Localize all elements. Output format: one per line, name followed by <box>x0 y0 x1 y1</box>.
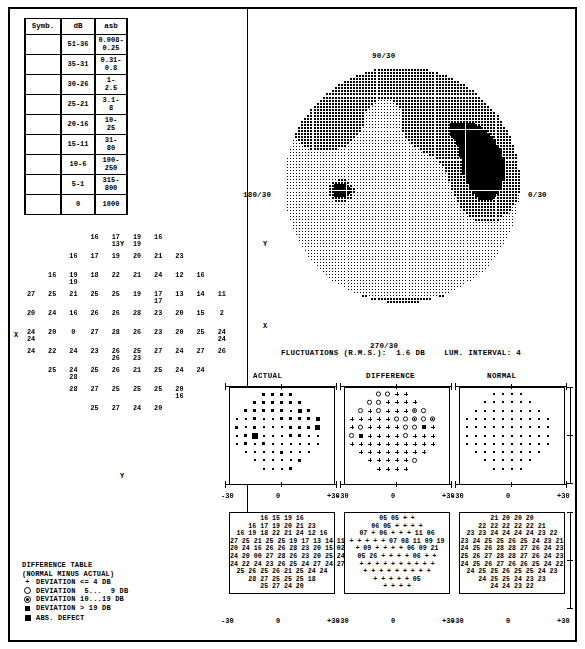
field-value: 27 <box>151 348 165 355</box>
field-value: 23 <box>172 253 186 260</box>
table-row: 10-6100-250 <box>25 155 127 175</box>
field-value: 24 <box>130 405 144 412</box>
panel-axis-tick-center <box>281 482 282 487</box>
field-value: 19 <box>109 253 123 260</box>
symbol-density-swatch <box>25 95 61 115</box>
field-value: 28 <box>109 329 123 336</box>
panel-axis-tick-center <box>511 384 512 389</box>
gray-label-90: 90/30 <box>372 52 396 60</box>
panel-y-axis-tick <box>567 608 573 609</box>
legend-entry: ABS. DEFECT <box>22 614 128 623</box>
panel-x-axis-label: -30 <box>451 492 464 500</box>
field-value: 23 <box>88 348 102 355</box>
field-value: 22 <box>109 272 123 279</box>
symbol-db-range: 10-6 <box>61 155 95 175</box>
numeric-table-row: 06 05 + + + + <box>345 523 449 531</box>
field-value: 27 <box>109 405 123 412</box>
numeric-table-row: 25 26 25 26 21 25 24 24 <box>230 568 334 576</box>
symbol-asb-range: 0.008-0.25 <box>95 35 127 55</box>
symbol-asb-range: 100-250 <box>95 155 127 175</box>
field-value: 23 <box>151 310 165 317</box>
field-value: 27 <box>88 329 102 336</box>
gray-label-180: 180/30 <box>243 191 271 199</box>
symbol-asb-range: 1-2.5 <box>95 75 127 95</box>
field-value: 25 <box>88 291 102 298</box>
field-value: 0 <box>66 329 80 336</box>
legend-symbol-circle-icon <box>22 587 33 596</box>
field-value: 26 <box>88 310 102 317</box>
numeric-table-normal: 21 20 20 2022 22 22 22 22 2123 23 24 24 … <box>459 512 565 594</box>
legend-text: DEVIATION 10...19 DB <box>36 595 124 603</box>
panel-x-axis-label: 0 <box>276 492 280 500</box>
field-value: 25 <box>151 367 165 374</box>
field-value: 20 <box>172 310 186 317</box>
numeric-table-row: 25 27 24 20 <box>230 583 334 591</box>
panel-x-axis-label: 0 <box>391 617 395 625</box>
frame-border-top <box>8 7 577 9</box>
panel-header-actual: ACTUAL <box>253 372 282 380</box>
field-value: 24 <box>151 272 165 279</box>
table-row: 35-310.31-0.8 <box>25 55 127 75</box>
numeric-table-actual: 16 15 19 1616 17 19 20 21 2316 19 18 22 … <box>229 512 335 594</box>
gray-axis-x-marker: X <box>263 322 267 330</box>
field-value: 25 <box>194 329 208 336</box>
numeric-table-row: 05 26 + + + + 06 + + <box>345 553 449 561</box>
field-value: 27 <box>88 386 102 393</box>
panel-x-axis-label: -30 <box>221 617 234 625</box>
panel-x-axis-label: 0 <box>506 492 510 500</box>
field-value: 27 <box>24 291 38 298</box>
panel-header-difference: DIFFERENCE <box>366 372 415 380</box>
numeric-table-row: + + + + + 07 08 11 09 19 <box>345 538 449 546</box>
field-value: 23 <box>151 329 165 336</box>
symbol-density-swatch <box>25 195 61 215</box>
legend-text: DEVIATION 5... 9 DB <box>36 587 128 595</box>
column-header-asb: asb <box>95 19 127 35</box>
legend-entry: DEVIATION 10...19 DB <box>22 595 128 604</box>
field-value: 14 <box>194 291 208 298</box>
numfield-axis-y-marker-bottom: Y <box>120 472 124 480</box>
field-value: 25 <box>130 386 144 393</box>
field-value: 20 <box>172 329 186 336</box>
numeric-table-row: 25 26 27 28 28 27 26 24 23 <box>460 553 564 561</box>
field-value: 25 <box>109 291 123 298</box>
panel-y-axis-tick <box>567 560 573 561</box>
panel-y-axis-tick <box>567 483 573 484</box>
field-value: 16 <box>88 234 102 241</box>
panel-axis-tick <box>225 481 226 488</box>
column-header-db: dB <box>61 19 95 35</box>
field-value: 25 <box>151 386 165 393</box>
legend-entry: +DEVIATION <= 4 DB <box>22 578 128 587</box>
symbol-density-swatch <box>25 135 61 155</box>
field-value: 24 <box>172 367 186 374</box>
field-value: 21 <box>130 367 144 374</box>
field-value: 15 <box>194 310 208 317</box>
field-value: 26 <box>130 329 144 336</box>
numeric-table-row: 07 + 06 + + + 11 06 <box>345 530 449 538</box>
panel-axis-tick <box>455 481 456 488</box>
field-value: 13 <box>172 291 186 298</box>
numeric-table-row: 23 24 25 25 26 25 24 23 21 <box>460 538 564 546</box>
field-value: 24 <box>24 348 38 355</box>
symbol-db-range: 0 <box>61 195 95 215</box>
panel-x-axis-label: -30 <box>451 617 464 625</box>
panel-axis-tick-center <box>281 384 282 389</box>
legend-symbol-filled-small-icon <box>22 604 33 613</box>
legend-entry: DEVIATION > 19 DB <box>22 604 128 613</box>
panel-axis-tick <box>340 481 341 488</box>
field-value: 20 <box>151 405 165 412</box>
legend-subtitle: (NORMAL MINUS ACTUAL) <box>22 570 128 579</box>
difference-table-legend: DIFFERENCE TABLE (NORMAL MINUS ACTUAL) +… <box>22 561 128 623</box>
field-value: 27 <box>194 348 208 355</box>
field-value: 25 <box>88 405 102 412</box>
field-value: 26 <box>109 367 123 374</box>
symbol-density-swatch <box>25 115 61 135</box>
grayscale-field-plot <box>281 64 523 306</box>
field-value: 24 <box>172 348 186 355</box>
status-line: FLUCTUATIONS (R.M.S.): 1.6 DB LUM. INTER… <box>281 349 521 357</box>
table-row: 20-1610-25 <box>25 115 127 135</box>
panel-x-axis-label: 0 <box>276 617 280 625</box>
symbol-db-range: 51-36 <box>61 35 95 55</box>
field-value: 20 <box>45 329 59 336</box>
symbol-panel-actual <box>229 387 335 485</box>
panel-y-axis-tick <box>567 387 573 388</box>
